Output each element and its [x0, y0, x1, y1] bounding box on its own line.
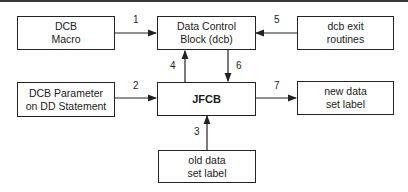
dcb-jfcb-flow-diagram: DCB Macro Data Control Block (dcb) dcb e… — [0, 0, 408, 192]
box-label-line: new data — [324, 85, 367, 98]
box-label-line: on DD Statement — [26, 100, 107, 113]
arrow-label-2: 2 — [133, 80, 139, 91]
box-old-data-set-label: old data set label — [158, 150, 256, 183]
box-label-line: set label — [326, 98, 365, 111]
box-label-line: routines — [327, 33, 364, 46]
box-jfcb: JFCB — [157, 82, 256, 116]
box-label-line: Block (dcb) — [180, 33, 233, 46]
box-new-data-set-label: new data set label — [297, 81, 394, 115]
box-label-line: DCB — [55, 20, 77, 33]
arrow-label-3: 3 — [194, 126, 200, 137]
box-label-line: DCB Parameter — [29, 87, 103, 100]
box-label-line: Data Control — [177, 20, 236, 33]
arrow-label-5: 5 — [274, 14, 280, 25]
box-dcb-exit-routines: dcb exit routines — [297, 16, 394, 50]
box-label-line: dcb exit — [327, 20, 363, 33]
box-dcb-macro: DCB Macro — [17, 16, 115, 50]
box-data-control-block: Data Control Block (dcb) — [157, 16, 256, 50]
box-label-line: Macro — [51, 33, 80, 46]
arrow-label-4: 4 — [170, 60, 176, 71]
arrow-label-7: 7 — [274, 80, 280, 91]
arrow-label-6: 6 — [236, 60, 242, 71]
box-label-line: old data — [188, 154, 225, 167]
arrow-label-1: 1 — [133, 14, 139, 25]
box-label-line: JFCB — [192, 93, 221, 106]
box-label-line: set label — [187, 167, 226, 180]
box-dcb-parameter: DCB Parameter on DD Statement — [17, 82, 115, 117]
